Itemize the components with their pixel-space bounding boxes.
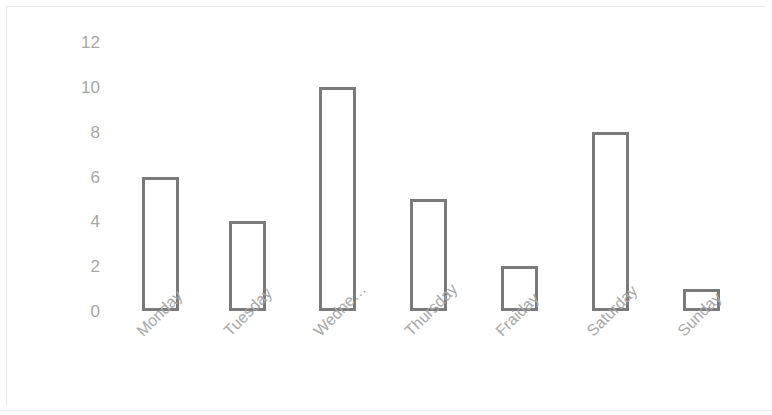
x-tick-label: Thursday [402, 281, 460, 339]
x-tick-label: Tuesday [221, 285, 275, 339]
plot-area: 024681012 MondayTuesdayWedne…ThursdayFra… [0, 0, 772, 415]
x-tick-label: Monday [134, 288, 186, 340]
x-tick-label: Saturday [584, 283, 641, 340]
x-tick-label: Sunday [675, 290, 725, 340]
x-tick-label: Fraiday [493, 290, 542, 339]
bar-chart: 024681012 MondayTuesdayWedne…ThursdayFra… [0, 0, 772, 415]
x-axis: MondayTuesdayWedne…ThursdayFraidaySaturd… [0, 0, 772, 415]
x-tick-label: Wedne… [311, 281, 369, 339]
